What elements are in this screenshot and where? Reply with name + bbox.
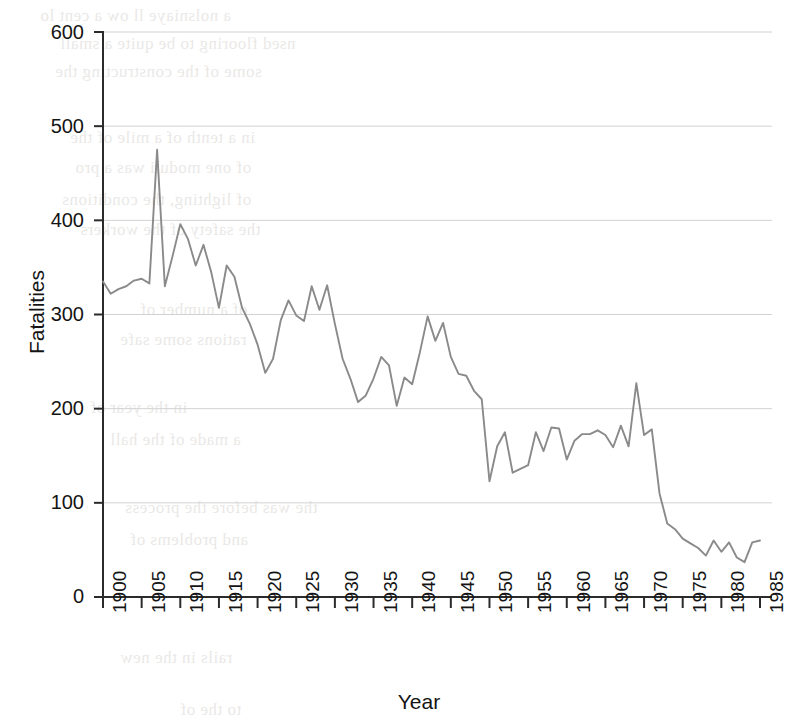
xtick-label-1980: 1980 bbox=[728, 571, 747, 613]
ytick-label-100: 100 bbox=[14, 492, 84, 512]
y-axis-title: Fatalities bbox=[25, 252, 49, 372]
fatalities-line-chart: 600 500 400 300 200 100 0 Fatalities Yea… bbox=[0, 0, 802, 727]
ytick-label-400: 400 bbox=[14, 210, 84, 230]
xtick-label-1970: 1970 bbox=[651, 571, 670, 613]
xtick-label-1920: 1920 bbox=[265, 571, 284, 613]
xtick-label-1935: 1935 bbox=[381, 571, 400, 613]
xtick-label-1955: 1955 bbox=[535, 571, 554, 613]
xtick-label-1945: 1945 bbox=[458, 571, 477, 613]
x-axis-title: Year bbox=[18, 690, 802, 714]
xtick-label-1905: 1905 bbox=[149, 571, 168, 613]
xtick-label-1915: 1915 bbox=[226, 571, 245, 613]
ytick-label-200: 200 bbox=[14, 398, 84, 418]
xtick-label-1960: 1960 bbox=[574, 571, 593, 613]
xtick-label-1965: 1965 bbox=[612, 571, 631, 613]
xtick-label-1925: 1925 bbox=[303, 571, 322, 613]
xtick-label-1975: 1975 bbox=[690, 571, 709, 613]
xtick-label-1985: 1985 bbox=[767, 571, 786, 613]
ytick-label-600: 600 bbox=[14, 22, 84, 42]
xtick-label-1910: 1910 bbox=[187, 571, 206, 613]
xtick-label-1940: 1940 bbox=[419, 571, 438, 613]
ytick-label-500: 500 bbox=[14, 116, 84, 136]
chart-plot-area bbox=[0, 0, 802, 727]
ytick-label-0: 0 bbox=[14, 586, 84, 606]
fatalities-series-line bbox=[103, 150, 760, 562]
xtick-label-1930: 1930 bbox=[342, 571, 361, 613]
xtick-label-1900: 1900 bbox=[110, 571, 129, 613]
xtick-label-1950: 1950 bbox=[496, 571, 515, 613]
